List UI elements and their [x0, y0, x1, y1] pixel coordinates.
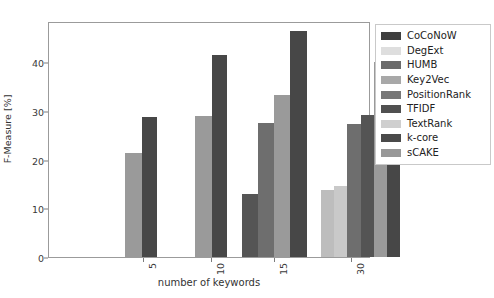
legend-label: TextRank: [407, 119, 452, 129]
x-tick-label: 5: [147, 263, 158, 269]
legend-item[interactable]: Key2Vec: [381, 73, 486, 88]
y-tick-label: 40: [18, 58, 44, 69]
y-tick-label: 30: [18, 107, 44, 118]
x-tick-mark: [351, 258, 352, 262]
bar: [242, 194, 258, 257]
legend-item[interactable]: k-core: [381, 131, 486, 146]
legend-label: k-core: [407, 133, 438, 143]
y-tick-label: 20: [18, 155, 44, 166]
y-axis-label: F-Measure [%]: [2, 95, 13, 164]
legend-label: CoCoNoW: [407, 31, 457, 41]
x-tick-label: 15: [278, 263, 289, 275]
bars-container: [49, 23, 369, 257]
legend-swatch-icon: [381, 47, 401, 55]
bar: [195, 116, 212, 257]
x-axis-label: number of keywords: [158, 277, 260, 288]
legend-label: DegExt: [407, 46, 443, 56]
legend-item[interactable]: DegExt: [381, 44, 486, 59]
x-tick-mark: [143, 258, 144, 262]
legend-swatch-icon: [381, 134, 401, 142]
legend-label: TFIDF: [407, 104, 435, 114]
legend-item[interactable]: HUMB: [381, 58, 486, 73]
legend-label: Key2Vec: [407, 75, 449, 85]
bar: [274, 95, 290, 257]
legend-item[interactable]: TextRank: [381, 117, 486, 132]
figure: F-Measure [%] 010203040 5101530 number o…: [0, 0, 494, 298]
y-tick-label: 10: [18, 204, 44, 215]
legend-label: sCAKE: [407, 148, 439, 158]
legend-item[interactable]: sCAKE: [381, 146, 486, 161]
legend-item[interactable]: PositionRank: [381, 87, 486, 102]
legend-item[interactable]: TFIDF: [381, 102, 486, 117]
bar: [361, 115, 374, 257]
y-tick-label: 0: [18, 253, 44, 264]
bar: [321, 190, 334, 257]
x-tick-label: 10: [215, 263, 226, 275]
legend-label: PositionRank: [407, 90, 471, 100]
legend-swatch-icon: [381, 61, 401, 69]
legend-swatch-icon: [381, 149, 401, 157]
legend-label: HUMB: [407, 60, 437, 70]
legend-swatch-icon: [381, 76, 401, 84]
legend-item[interactable]: CoCoNoW: [381, 29, 486, 44]
bar: [334, 186, 347, 257]
legend: CoCoNoWDegExtHUMBKey2VecPositionRankTFID…: [375, 24, 491, 165]
bar: [125, 153, 142, 257]
legend-swatch-icon: [381, 120, 401, 128]
x-tick-label: 30: [355, 263, 366, 275]
legend-swatch-icon: [381, 105, 401, 113]
bar: [258, 123, 274, 257]
legend-swatch-icon: [381, 91, 401, 99]
x-tick-mark: [274, 258, 275, 262]
bar: [347, 124, 361, 257]
x-tick-mark: [211, 258, 212, 262]
plot-area: [48, 22, 370, 258]
bar: [142, 117, 157, 257]
bar: [290, 31, 307, 257]
bar: [212, 55, 227, 257]
legend-swatch-icon: [381, 32, 401, 40]
